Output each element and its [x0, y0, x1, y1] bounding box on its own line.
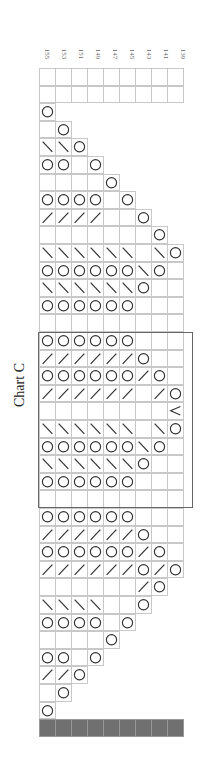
stitch-cell	[71, 279, 88, 297]
chart-row	[39, 226, 167, 244]
stitch-cell	[103, 385, 120, 403]
stitch-cell	[135, 473, 152, 491]
chart-row	[39, 420, 183, 438]
stitch-cell	[167, 244, 184, 262]
stitch-cell	[87, 649, 104, 667]
stitch-cell	[167, 455, 184, 473]
stitch-cell	[39, 121, 56, 139]
stitch-cell	[39, 614, 56, 632]
stitch-cell	[55, 174, 72, 192]
stitch-cell	[151, 367, 168, 385]
stitch-cell	[167, 438, 184, 456]
column-label: 151	[73, 44, 90, 64]
chart-row	[39, 332, 183, 350]
chart-row	[39, 174, 119, 192]
stitch-cell	[103, 244, 120, 262]
no-stitch-cell	[39, 719, 56, 737]
stitch-cell	[103, 438, 120, 456]
stitch-cell	[39, 244, 56, 262]
stitch-cell	[55, 420, 72, 438]
stitch-cell	[55, 543, 72, 561]
no-stitch-cell	[135, 719, 152, 737]
stitch-cell	[135, 262, 152, 280]
stitch-cell	[119, 367, 136, 385]
stitch-cell	[103, 614, 120, 632]
chart-row	[39, 684, 71, 702]
chart-row	[39, 438, 183, 456]
stitch-cell	[71, 666, 88, 684]
chart-row	[39, 103, 55, 121]
stitch-cell	[39, 262, 56, 280]
chart-row	[39, 297, 183, 315]
stitch-cell	[167, 561, 184, 579]
stitch-cell	[103, 455, 120, 473]
stitch-cell	[103, 314, 120, 332]
stitch-cell	[151, 314, 168, 332]
stitch-cell	[119, 262, 136, 280]
stitch-cell	[71, 438, 88, 456]
stitch-cell	[167, 420, 184, 438]
stitch-cell	[87, 473, 104, 491]
stitch-cell	[71, 561, 88, 579]
chart-row	[39, 543, 183, 561]
stitch-cell	[39, 297, 56, 315]
stitch-cell	[71, 174, 88, 192]
column-label: 143	[141, 44, 158, 64]
column-label: 139	[175, 44, 192, 64]
column-label-text: 151	[78, 49, 86, 60]
stitch-cell	[151, 226, 168, 244]
stitch-cell	[119, 191, 136, 209]
stitch-cell	[55, 209, 72, 227]
chart-row	[39, 156, 103, 174]
stitch-cell	[151, 526, 168, 544]
stitch-cell	[87, 279, 104, 297]
chart-row	[39, 209, 151, 227]
stitch-cell	[71, 490, 88, 508]
stitch-cell	[135, 209, 152, 227]
stitch-cell	[55, 684, 72, 702]
stitch-cell	[71, 578, 88, 596]
chart-title: Chart C	[12, 363, 28, 407]
stitch-cell	[87, 367, 104, 385]
stitch-cell	[87, 68, 104, 86]
no-stitch-cell	[55, 719, 72, 737]
stitch-cell	[103, 262, 120, 280]
column-label-text: 155	[44, 49, 52, 60]
stitch-cell	[167, 508, 184, 526]
stitch-cell	[119, 332, 136, 350]
stitch-cell	[103, 402, 120, 420]
stitch-cell	[135, 490, 152, 508]
stitch-cell	[151, 244, 168, 262]
chart-row	[39, 666, 87, 684]
stitch-cell	[71, 68, 88, 86]
stitch-cell	[135, 385, 152, 403]
stitch-cell	[151, 297, 168, 315]
stitch-cell	[39, 385, 56, 403]
stitch-cell	[151, 402, 168, 420]
stitch-cell	[151, 490, 168, 508]
stitch-cell	[39, 684, 56, 702]
stitch-cell	[55, 438, 72, 456]
stitch-cell	[71, 402, 88, 420]
stitch-cell	[87, 226, 104, 244]
stitch-cell	[71, 138, 88, 156]
stitch-cell	[135, 367, 152, 385]
stitch-cell	[103, 350, 120, 368]
stitch-cell	[135, 402, 152, 420]
stitch-cell	[135, 596, 152, 614]
stitch-cell	[39, 596, 56, 614]
stitch-cell	[55, 526, 72, 544]
stitch-cell	[103, 508, 120, 526]
stitch-cell	[71, 244, 88, 262]
stitch-cell	[103, 279, 120, 297]
stitch-cell	[39, 68, 56, 86]
stitch-cell	[103, 209, 120, 227]
stitch-cell	[87, 86, 104, 104]
stitch-cell	[103, 526, 120, 544]
stitch-cell	[87, 174, 104, 192]
stitch-cell	[135, 526, 152, 544]
stitch-cell	[151, 279, 168, 297]
stitch-cell	[87, 631, 104, 649]
stitch-cell	[39, 350, 56, 368]
stitch-cell	[39, 438, 56, 456]
